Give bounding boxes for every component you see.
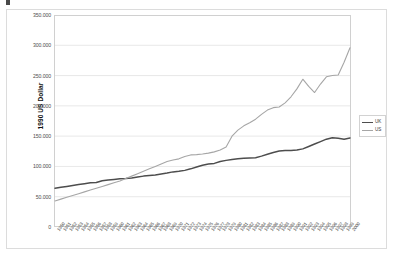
line-chart-svg xyxy=(54,15,351,227)
series-line-uk xyxy=(55,138,350,189)
legend-swatch-us xyxy=(362,130,373,131)
series-lines xyxy=(55,48,350,201)
header-strip: · · · · · · · · xyxy=(0,0,393,7)
chart-legend: UKUS xyxy=(359,115,386,137)
y-tick-label: 50.000 xyxy=(36,194,51,200)
legend-swatch-uk xyxy=(362,122,373,123)
y-tick-label: 200.000 xyxy=(33,103,51,109)
header-crumb-text: · · · · · · · · xyxy=(360,0,389,2)
y-axis-tick-labels: 350.000300.000250.000200.000150.000100.0… xyxy=(19,15,51,227)
legend-label: US xyxy=(375,128,381,133)
y-tick-label: 150.000 xyxy=(33,133,51,139)
legend-item-us[interactable]: US xyxy=(362,126,383,134)
y-tick-label: 250.000 xyxy=(33,73,51,79)
header-block-mark xyxy=(6,0,10,5)
gridlines xyxy=(54,15,351,227)
series-line-us xyxy=(55,48,350,201)
y-tick-label: 100.000 xyxy=(33,163,51,169)
chart-frame: 1990 US Dollar 350.000300.000250.000200.… xyxy=(6,9,387,249)
y-tick-label: 300.000 xyxy=(33,42,51,48)
plot-border xyxy=(55,16,351,227)
legend-item-uk[interactable]: UK xyxy=(362,118,383,126)
x-axis-tick-labels: 1950195119521953195419551956195719581959… xyxy=(54,229,351,255)
y-tick-label: 350.000 xyxy=(33,12,51,18)
legend-label: UK xyxy=(375,120,381,125)
y-tick-label: 0 xyxy=(48,224,51,230)
plot-area xyxy=(54,15,351,227)
